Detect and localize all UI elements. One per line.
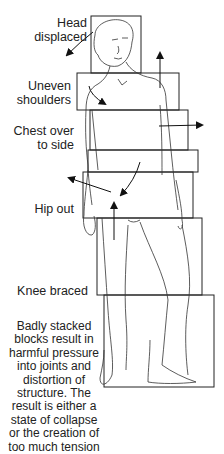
label-chest-line1: Chest over [4,124,74,138]
label-chest-over: Chest over to side [4,124,74,152]
feet-block [104,295,214,387]
hip-block [83,172,193,218]
label-uneven-shoulders: Uneven shoulders [4,79,71,107]
label-head-displaced: Head displaced [4,16,87,44]
chest-block [90,110,188,150]
caption-line: structure. The [8,387,100,400]
knee-block [97,218,202,295]
head-block [91,16,141,73]
label-uneven-line2: shoulders [4,93,71,107]
shoulder-down-arrow [89,86,105,104]
shoulders-block [77,73,179,110]
label-chest-line2: to side [4,138,74,152]
caption-line: harmful pressure [8,347,100,360]
caption-line: too much tension [8,441,100,454]
caption-line: Badly stacked [8,320,100,333]
chest-arrow [159,125,202,126]
label-knee-braced: Knee braced [4,284,88,298]
caption-line: or the creation of [8,427,100,440]
caption-line: into joints and [8,360,100,373]
waist-block [88,150,198,172]
label-hip-out: Hip out [4,202,74,216]
caption-line: state of collapse [8,414,100,427]
hip-in-arrow [121,162,140,195]
caption: Badly stacked blocks result in harmful p… [8,320,100,454]
caption-line: blocks result in [8,333,100,346]
label-uneven-line1: Uneven [4,79,71,93]
caption-line: distortion of [8,374,100,387]
caption-line: result is either a [8,400,100,413]
